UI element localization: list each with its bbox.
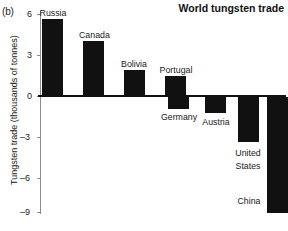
bar-label-austria: Austria [200, 117, 232, 127]
bar-united-states[interactable] [238, 97, 259, 142]
y-tick-label-m6: –6 [10, 173, 30, 183]
bar-label-bolivia: Bolivia [120, 59, 148, 69]
y-tick-label-m3: –3 [10, 132, 30, 142]
y-tick-mark-m9 [37, 212, 41, 213]
bar-china[interactable] [267, 97, 288, 213]
y-tick-label-m9: –9 [10, 207, 30, 217]
y-tick-mark-3 [37, 55, 41, 56]
bar-label-china: China [234, 196, 264, 206]
y-tick-mark-m6 [37, 178, 41, 179]
bar-label-united-states-line2: States [228, 161, 268, 171]
y-tick-label-6: 6 [12, 9, 32, 19]
y-tick-label-3: 3 [12, 50, 32, 60]
y-tick-label-0: 0 [12, 91, 32, 101]
bar-bolivia[interactable] [124, 70, 145, 96]
chart-figure: (b) World tungsten trade Tungsten trade … [0, 0, 288, 231]
bar-austria[interactable] [205, 97, 226, 113]
y-axis-line [40, 12, 41, 214]
bar-label-portugal: Portugal [159, 65, 193, 75]
bar-canada[interactable] [83, 41, 104, 96]
bar-label-united-states-line1: United [228, 148, 268, 158]
chart-title: World tungsten trade [179, 2, 284, 14]
bar-russia[interactable] [42, 19, 63, 96]
bar-label-canada: Canada [79, 30, 109, 40]
bar-label-germany: Germany [159, 112, 199, 122]
bar-label-russia: Russia [39, 8, 67, 18]
bar-portugal[interactable] [165, 76, 186, 96]
y-tick-mark-m3 [37, 137, 41, 138]
bar-germany[interactable] [168, 97, 189, 109]
